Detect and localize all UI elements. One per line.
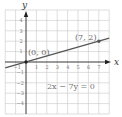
- coordinate-plane: x y −1 1 2 3 4 5 6 7 4 3 2 1 −1 −2 −3 −4…: [0, 0, 122, 117]
- svg-text:−1: −1: [17, 69, 24, 75]
- x-tick-labels: −1 1 2 3 4 5 6 7: [14, 64, 101, 70]
- point-7-2: [97, 40, 100, 43]
- svg-text:−3: −3: [17, 90, 24, 96]
- point-origin: [24, 60, 27, 63]
- label-point-7-2: (7, 2): [75, 33, 97, 42]
- svg-text:6: 6: [87, 64, 90, 70]
- svg-text:−2: −2: [17, 80, 24, 86]
- svg-text:2: 2: [20, 38, 23, 44]
- x-axis-arrow-icon: [105, 60, 111, 64]
- svg-text:−4: −4: [17, 100, 24, 106]
- equation-label: 2x − 7y = 0: [47, 82, 95, 91]
- svg-text:2: 2: [45, 64, 48, 70]
- label-origin: (0, 0): [28, 48, 50, 57]
- svg-text:1: 1: [20, 48, 23, 54]
- svg-text:5: 5: [77, 64, 80, 70]
- svg-text:4: 4: [20, 17, 23, 23]
- svg-text:3: 3: [56, 64, 59, 70]
- x-axis-label: x: [114, 57, 119, 67]
- svg-text:7: 7: [97, 64, 100, 70]
- svg-text:1: 1: [35, 64, 38, 70]
- y-axis-label: y: [21, 0, 28, 10]
- svg-text:4: 4: [66, 64, 69, 70]
- svg-text:3: 3: [20, 28, 23, 34]
- y-axis-arrow-icon: [24, 11, 28, 17]
